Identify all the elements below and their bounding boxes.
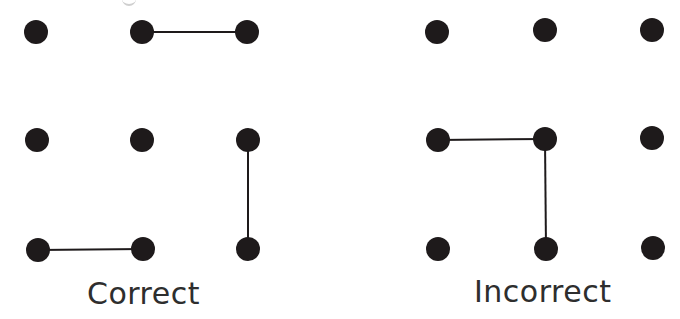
dot-grid-diagram bbox=[0, 0, 680, 319]
grid-dot bbox=[130, 20, 154, 44]
incorrect-dot-grid bbox=[425, 18, 665, 261]
grid-dot bbox=[236, 128, 260, 152]
grid-dot bbox=[25, 128, 49, 152]
connector-line bbox=[38, 249, 143, 250]
grid-dot bbox=[533, 127, 557, 151]
incorrect-caption: Incorrect bbox=[474, 277, 611, 307]
grid-dot bbox=[24, 20, 48, 44]
correct-caption: Correct bbox=[87, 279, 200, 309]
grid-dot bbox=[425, 20, 449, 44]
correct-dot-grid bbox=[24, 20, 260, 262]
grid-dot bbox=[641, 236, 665, 260]
grid-dot bbox=[26, 238, 50, 262]
connector-line bbox=[438, 139, 545, 140]
grid-dot bbox=[131, 237, 155, 261]
grid-dot bbox=[130, 128, 154, 152]
connector-line bbox=[545, 139, 546, 249]
grid-dot bbox=[640, 18, 664, 42]
grid-dot bbox=[533, 18, 557, 42]
grid-dot bbox=[236, 237, 260, 261]
grid-dot bbox=[426, 128, 450, 152]
grid-dot bbox=[534, 237, 558, 261]
grid-dot bbox=[426, 237, 450, 261]
grid-dot bbox=[235, 20, 259, 44]
grid-dot bbox=[640, 126, 664, 150]
